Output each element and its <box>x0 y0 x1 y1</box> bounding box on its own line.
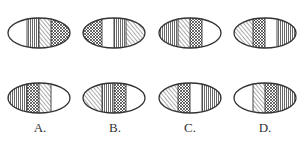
option-label-d: D. <box>259 120 272 136</box>
option-label-c: C. <box>184 120 196 136</box>
stripe-diagonal <box>178 18 190 48</box>
stripe-diagonal <box>39 83 51 113</box>
option-label-b: B. <box>109 120 121 136</box>
option-figure-c <box>159 83 221 113</box>
stripe-dots <box>265 83 277 113</box>
option-figure-b <box>83 83 145 113</box>
stripe-dots <box>190 18 202 48</box>
stripe-blank <box>102 18 114 48</box>
stripe-vertical <box>102 83 114 113</box>
sequence-figure-1 <box>8 18 70 48</box>
option-label-a: A. <box>34 120 47 136</box>
stripe-vertical <box>27 18 39 48</box>
stripe-diagonal <box>253 83 265 113</box>
stripe-vertical <box>114 18 126 48</box>
stripe-blank <box>190 83 202 113</box>
stripe-blank <box>265 18 277 48</box>
sequence-figure-4 <box>234 18 296 48</box>
option-figure-a <box>8 83 70 113</box>
stripe-dots <box>114 83 126 113</box>
stripe-dots <box>253 18 265 48</box>
sequence-figure-3 <box>159 18 221 48</box>
stripe-dots <box>178 83 190 113</box>
stripe-dots <box>27 83 39 113</box>
option-figure-d <box>234 83 296 113</box>
sequence-figure-2 <box>83 18 145 48</box>
stripe-diagonal <box>39 18 51 48</box>
